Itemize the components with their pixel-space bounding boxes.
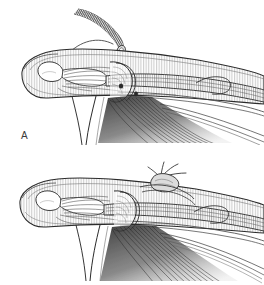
figure-root: A <box>0 0 264 285</box>
shaded-tendon-fan <box>72 96 232 145</box>
panel-a: A <box>0 0 264 145</box>
panel-label-a: A <box>21 131 28 141</box>
panel-b: B <box>0 143 264 285</box>
